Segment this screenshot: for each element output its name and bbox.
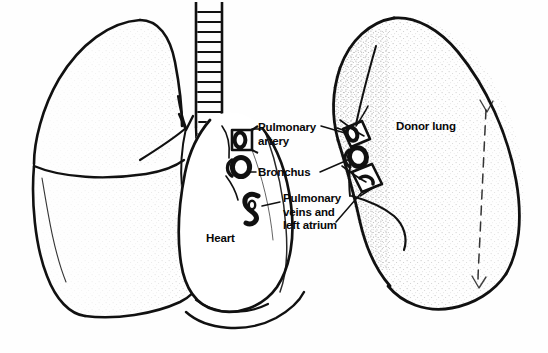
recipient-bronchus-stump <box>228 157 250 176</box>
label-heart: Heart <box>206 232 235 246</box>
label-donor-lung: Donor lung <box>396 120 456 134</box>
label-pulmonary-veins-and-left-atrium: Pulmonary veins and left atrium <box>283 192 341 233</box>
lung-transplant-diagram: Pulmonary artery Bronchus Pulmonary vein… <box>0 0 548 353</box>
label-bronchus: Bronchus <box>258 166 310 180</box>
label-pulmonary-artery: Pulmonary artery <box>258 121 316 148</box>
